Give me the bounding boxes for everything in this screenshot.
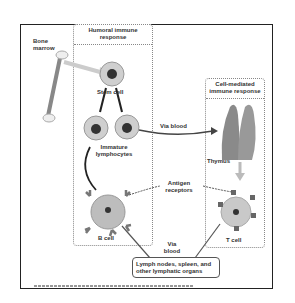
stem-cell-icon	[100, 62, 124, 86]
lymph-organs-box: Lymph nodes, spleen, and other lymphatic…	[132, 257, 220, 278]
via-blood-bottom-label: Via blood	[163, 241, 181, 255]
b-cell-label: B cell	[98, 235, 114, 242]
t-cell-icon	[218, 190, 256, 231]
bone-marrow-label: Bone marrow	[33, 38, 55, 52]
via-blood-top-label: Via blood	[160, 123, 187, 130]
immature-lymphocyte-icon	[84, 115, 139, 140]
copyright-credit	[34, 285, 194, 287]
thymus-label: Thymus	[207, 158, 230, 165]
thymus-icon	[222, 105, 256, 160]
immature-lymphocytes-label: Immature lymphocytes	[93, 144, 135, 158]
t-cell-label: T cell	[226, 237, 241, 244]
antigen-receptors-label: Antigen receptors	[160, 180, 198, 194]
stem-cell-label: Stem cell	[97, 89, 123, 96]
